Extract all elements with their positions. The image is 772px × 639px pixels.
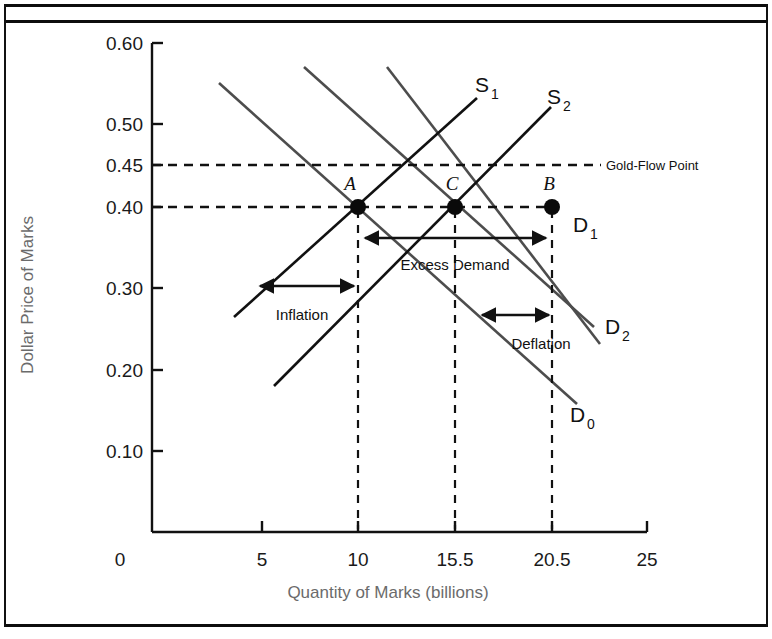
curve-sub-s2: 2	[563, 98, 571, 114]
x-tick-label-0: 0	[115, 549, 126, 570]
inflation-annotation: Inflation	[260, 286, 354, 323]
deflation-annotation: Deflation	[482, 315, 571, 352]
supply-demand-chart: 0.60 0.50 0.45 0.40 0.30 0.20 0.10 0 5 1…	[0, 0, 772, 639]
point-label-b: B	[543, 173, 555, 194]
curve-label-d0: D	[570, 403, 585, 426]
x-tick-label-20.5: 20.5	[534, 549, 571, 570]
x-tick-label-25: 25	[636, 549, 657, 570]
point-marker-c	[447, 199, 463, 215]
y-tick-label-0.10: 0.10	[106, 441, 143, 462]
x-tick-labels: 0 5 10 15.5 20.5 25	[115, 549, 658, 570]
point-marker-a	[350, 199, 366, 215]
curve-sub-d1: 1	[590, 226, 598, 242]
curve-label-d2: D	[605, 315, 620, 338]
inflation-label: Inflation	[276, 306, 329, 323]
point-label-a: A	[342, 173, 356, 194]
curve-label-s2: S	[547, 85, 561, 108]
x-axis-title: Quantity of Marks (billions)	[287, 583, 488, 602]
y-tick-label-0.45: 0.45	[106, 155, 143, 176]
y-tick-label-0.30: 0.30	[106, 278, 143, 299]
curve-sub-s1: 1	[491, 86, 499, 102]
excess-demand-label: Excess Demand	[400, 256, 509, 273]
figure-container: 0.60 0.50 0.45 0.40 0.30 0.20 0.10 0 5 1…	[0, 0, 772, 639]
gold-flow-point-label: Gold-Flow Point	[606, 158, 699, 173]
deflation-label: Deflation	[511, 335, 570, 352]
curve-label-s1: S	[475, 73, 489, 96]
x-tick-label-15.5: 15.5	[437, 549, 474, 570]
axes-group	[152, 43, 647, 532]
y-tick-labels: 0.60 0.50 0.45 0.40 0.30 0.20 0.10	[106, 33, 143, 462]
curve-label-d1: D	[573, 213, 588, 236]
y-tick-label-0.20: 0.20	[106, 360, 143, 381]
point-marker-b	[544, 199, 560, 215]
x-tick-label-5: 5	[257, 549, 268, 570]
y-tick-label-0.40: 0.40	[106, 197, 143, 218]
y-tick-label-0.50: 0.50	[106, 114, 143, 135]
curve-sub-d2: 2	[622, 328, 630, 344]
x-tick-label-10: 10	[347, 549, 368, 570]
curve-sub-d0: 0	[587, 416, 595, 432]
y-tick-label-0.60: 0.60	[106, 33, 143, 54]
y-axis-title: Dollar Price of Marks	[18, 216, 37, 374]
demand-curves-group	[219, 67, 600, 404]
point-label-c: C	[446, 173, 459, 194]
supply-curves-group	[234, 98, 551, 386]
